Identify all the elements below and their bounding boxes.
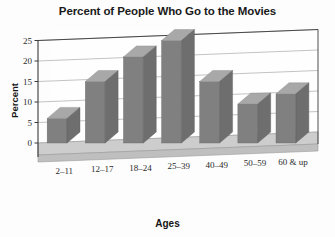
y-tick-label: 5 (28, 118, 33, 128)
y-tick-label: 10 (23, 97, 33, 107)
x-tick-label: 40–49 (206, 160, 229, 170)
bar-side-face (143, 46, 156, 143)
bar-chart-figure: Percent of People Who Go to the Movies P… (0, 0, 335, 237)
x-tick-label: 2–11 (55, 166, 73, 176)
x-tick-label: 50–59 (244, 158, 267, 168)
y-tick-label: 0 (28, 138, 33, 148)
y-tick-label: 25 (23, 36, 33, 46)
y-axis-tick-labels: 0510152025 (23, 36, 33, 149)
bar-front-face (200, 82, 220, 144)
x-tick-label: 60 & up (278, 157, 308, 167)
bar (238, 93, 271, 143)
bar (123, 46, 156, 143)
x-tick-label: 25–39 (167, 161, 190, 171)
bar-side-face (220, 71, 233, 144)
plot-area: 0510152025 2–1112–1718–2425–3940–4950–59… (0, 0, 335, 237)
y-tick-label: 20 (23, 56, 33, 66)
bar (85, 71, 118, 144)
bar-front-face (238, 104, 258, 143)
bar-front-face (85, 82, 105, 144)
bar-side-face (181, 30, 194, 144)
bar-side-face (105, 71, 118, 144)
bar-front-face (162, 41, 182, 144)
bar-front-face (47, 118, 67, 143)
bar (162, 30, 195, 144)
bar-front-face (123, 57, 143, 143)
bar (276, 83, 309, 143)
bar (200, 71, 233, 144)
y-tick-label: 15 (23, 77, 33, 87)
x-tick-label: 12–17 (91, 164, 114, 174)
x-tick-label: 18–24 (129, 163, 152, 173)
bar-front-face (276, 94, 296, 143)
